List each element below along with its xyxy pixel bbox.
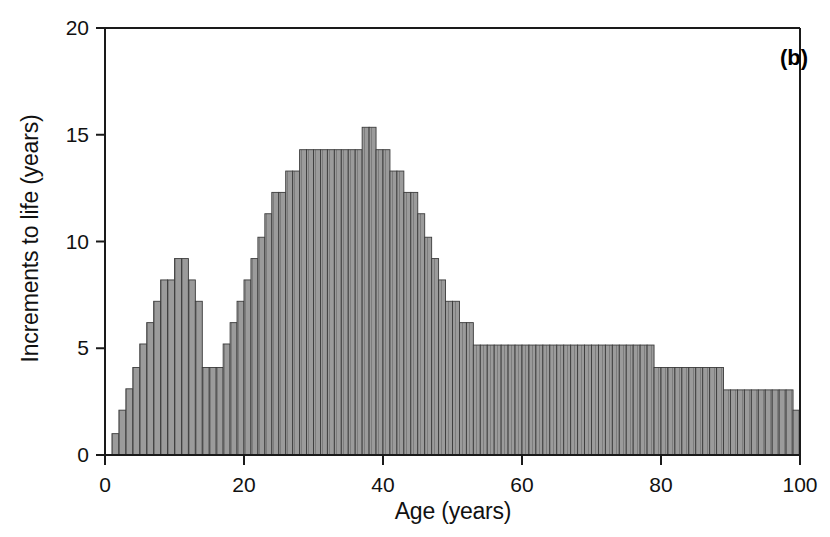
- histogram-bar: [626, 345, 633, 455]
- histogram-bar: [202, 367, 209, 455]
- histogram-bar: [668, 367, 675, 455]
- histogram-bar: [612, 345, 619, 455]
- histogram-bar: [689, 367, 696, 455]
- histogram-bar: [640, 345, 647, 455]
- histogram-bar: [466, 323, 473, 455]
- histogram-bar: [550, 345, 557, 455]
- histogram-bar: [432, 259, 439, 455]
- y-tick-label: 15: [43, 123, 89, 147]
- histogram-bar: [355, 150, 362, 455]
- histogram-bar: [279, 192, 286, 455]
- histogram-bar: [209, 367, 216, 455]
- histogram-bar: [737, 390, 744, 455]
- histogram-bar: [300, 150, 307, 455]
- histogram-bar: [619, 345, 626, 455]
- histogram-bar: [536, 345, 543, 455]
- histogram-bar: [758, 390, 765, 455]
- y-tick-label: 20: [43, 16, 89, 40]
- histogram-bar: [779, 390, 786, 455]
- histogram-bar: [786, 390, 793, 455]
- histogram-bar: [543, 345, 550, 455]
- y-tick-label: 5: [43, 336, 89, 360]
- histogram-bar: [564, 345, 571, 455]
- histogram-bar: [654, 367, 661, 455]
- histogram-bar: [703, 367, 710, 455]
- y-tick-label: 10: [43, 230, 89, 254]
- histogram-bar: [383, 150, 390, 455]
- x-tick-label: 20: [214, 473, 274, 497]
- histogram-bar: [188, 280, 195, 455]
- histogram-bar: [244, 280, 251, 455]
- histogram-bar: [578, 345, 585, 455]
- histogram-bar: [480, 345, 487, 455]
- histogram-bar: [605, 345, 612, 455]
- histogram-bar: [376, 150, 383, 455]
- histogram-bar: [446, 301, 453, 455]
- histogram-bar: [487, 345, 494, 455]
- histogram-bar: [744, 390, 751, 455]
- histogram-bar: [793, 410, 800, 455]
- histogram-bar: [515, 345, 522, 455]
- histogram-bar: [272, 192, 279, 455]
- histogram-bar: [307, 150, 314, 455]
- histogram-bar: [633, 345, 640, 455]
- histogram-bar: [453, 301, 460, 455]
- histogram-bar: [119, 410, 126, 455]
- histogram-bar: [772, 390, 779, 455]
- histogram-bar: [334, 150, 341, 455]
- histogram-bar: [522, 345, 529, 455]
- x-tick-label: 100: [770, 473, 830, 497]
- histogram-bar: [175, 259, 182, 455]
- histogram-bar: [112, 434, 119, 455]
- figure-panel-b: Increments to life (years) Age (years) (…: [0, 0, 830, 537]
- histogram-bar: [598, 345, 605, 455]
- histogram-bar: [529, 345, 536, 455]
- histogram-bar: [348, 150, 355, 455]
- histogram-bar: [459, 323, 466, 455]
- histogram-bar: [661, 367, 668, 455]
- histogram-plot: [0, 0, 830, 537]
- histogram-bar: [494, 345, 501, 455]
- histogram-bar: [675, 367, 682, 455]
- histogram-bar: [133, 367, 140, 455]
- histogram-bar: [390, 171, 397, 455]
- histogram-bar: [265, 214, 272, 455]
- histogram-bar: [286, 171, 293, 455]
- histogram-bar: [710, 367, 717, 455]
- histogram-bar: [473, 345, 480, 455]
- histogram-bar: [418, 214, 425, 455]
- histogram-bar: [126, 389, 133, 455]
- histogram-bar: [585, 345, 592, 455]
- histogram-bar: [195, 301, 202, 455]
- histogram-bar: [147, 323, 154, 455]
- histogram-bar: [731, 390, 738, 455]
- histogram-bar: [571, 345, 578, 455]
- histogram-bar: [237, 301, 244, 455]
- histogram-bar: [682, 367, 689, 455]
- histogram-bar: [397, 171, 404, 455]
- histogram-bar: [251, 259, 258, 455]
- histogram-bar: [717, 367, 724, 455]
- histogram-bar: [293, 171, 300, 455]
- histogram-bar: [258, 237, 265, 455]
- histogram-bar: [341, 150, 348, 455]
- histogram-bar: [140, 344, 147, 455]
- histogram-bar: [230, 323, 237, 455]
- y-axis-title: Increments to life (years): [17, 4, 44, 474]
- x-axis-title: Age (years): [105, 498, 801, 525]
- x-tick-label: 80: [631, 473, 691, 497]
- histogram-bar: [411, 192, 418, 455]
- histogram-bar: [501, 345, 508, 455]
- histogram-bar: [168, 280, 175, 455]
- histogram-bar: [439, 280, 446, 455]
- histogram-bar: [557, 345, 564, 455]
- histogram-bar: [327, 150, 334, 455]
- histogram-bar: [751, 390, 758, 455]
- histogram-bar: [647, 345, 654, 455]
- histogram-bar: [508, 345, 515, 455]
- histogram-bar: [425, 237, 432, 455]
- y-tick-label: 0: [43, 443, 89, 467]
- x-tick-label: 60: [492, 473, 552, 497]
- bar-series: [112, 127, 800, 455]
- histogram-bar: [161, 280, 168, 455]
